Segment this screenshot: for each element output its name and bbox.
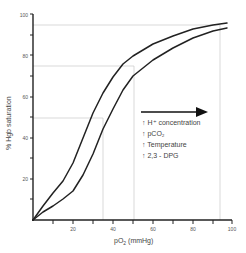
- factor-pco2: ↑ pCO₂: [142, 130, 165, 138]
- x-tick-label: 80: [190, 226, 196, 232]
- axes: [32, 14, 232, 221]
- y-tick-label: 100: [20, 12, 29, 18]
- factor-temperature: ↑ Temperature: [142, 141, 187, 149]
- x-axis-label: pO2 (mmHg): [114, 237, 153, 246]
- factor-h-concentration: ↑ H⁺ concentration: [142, 119, 201, 126]
- y-tick-labels: 20 40 60 80 100: [20, 12, 29, 182]
- x-tick-labels: 20 40 60 80 100: [70, 226, 236, 232]
- x-tick-label: 60: [150, 226, 156, 232]
- factor-dpg: ↑ 2,3 - DPG: [142, 152, 179, 159]
- y-tick-label: 20: [22, 176, 28, 182]
- y-tick-label: 80: [22, 53, 28, 59]
- oxygen-dissociation-chart: 20 40 60 80 100 20 40 60 80 100 pO2 (mmH…: [0, 0, 246, 253]
- x-tick-label: 20: [70, 226, 76, 232]
- right-shift-arrow: [141, 107, 208, 117]
- shift-factors: ↑ H⁺ concentration ↑ pCO₂ ↑ Temperature …: [142, 119, 201, 159]
- y-tick-label: 40: [22, 135, 28, 141]
- y-tick-label: 60: [22, 94, 28, 100]
- y-axis-label: % Hgb saturation: [5, 96, 13, 150]
- x-tick-label: 100: [228, 226, 237, 232]
- x-tick-label: 40: [110, 226, 116, 232]
